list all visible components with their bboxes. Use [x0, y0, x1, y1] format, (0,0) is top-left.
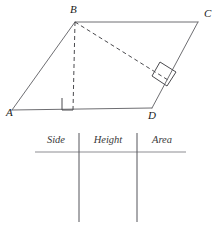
dashed-altitudes [73, 22, 168, 110]
vertex-labels: A B C D [5, 3, 212, 121]
right-angle-at-base-icon [62, 98, 73, 110]
edge-AB [12, 22, 75, 110]
right-angle-markers [62, 62, 176, 110]
vertex-label-A: A [5, 106, 13, 118]
height-from-B-to-AD-dashed-line [73, 22, 75, 110]
table-header-area: Area [151, 134, 172, 145]
edge-AD [12, 108, 152, 110]
geometry-figure-and-table: A B C D Side Height Area [0, 0, 220, 228]
table-cell-height[interactable] [79, 153, 137, 222]
edge-CD [152, 22, 198, 108]
table-cell-area[interactable] [137, 153, 186, 222]
vertex-label-B: B [70, 3, 77, 15]
parallelogram-edges [12, 22, 198, 110]
table-header-side: Side [47, 134, 65, 145]
table-header-height: Height [93, 134, 124, 145]
height-from-B-to-DC-dashed-line [75, 22, 168, 80]
vertex-label-C: C [204, 7, 212, 19]
figure-page: A B C D Side Height Area [0, 0, 220, 228]
table-cell-side[interactable] [35, 153, 79, 222]
right-angle-at-side-icon [152, 62, 176, 86]
measurements-table: Side Height Area [35, 133, 186, 222]
vertex-label-D: D [147, 109, 156, 121]
